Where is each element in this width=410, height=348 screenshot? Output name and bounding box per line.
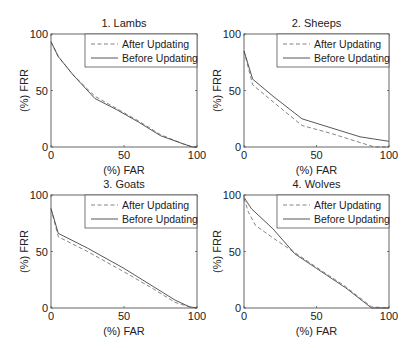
- legend: After Updating Before Updating: [85, 34, 198, 67]
- figure: 1. Lambs (%) FAR (%) FRR 050100050100 Af…: [0, 0, 410, 348]
- x-tick-label: 100: [380, 310, 398, 322]
- subplot-title: 4. Wolves: [292, 178, 341, 190]
- x-axis-label: (%) FAR: [296, 164, 338, 176]
- y-tick-label: 100: [223, 189, 241, 201]
- y-tick-label: 0: [235, 302, 241, 314]
- y-tick-label: 50: [36, 85, 48, 97]
- subplot-title: 3. Goats: [103, 178, 145, 190]
- x-tick-label: 100: [380, 149, 398, 161]
- y-axis-label: (%) FRR: [18, 69, 30, 112]
- legend: After Updating Before Updating: [277, 34, 390, 67]
- y-tick-label: 100: [30, 189, 48, 201]
- x-tick-label: 0: [241, 149, 247, 161]
- y-axis-label: (%) FRR: [18, 230, 30, 273]
- x-tick-label: 100: [188, 310, 206, 322]
- x-tick-label: 0: [241, 310, 247, 322]
- y-tick-label: 100: [30, 28, 48, 40]
- x-axis-label: (%) FAR: [103, 325, 145, 337]
- legend-before-label: Before Updating: [314, 213, 390, 225]
- legend: After Updating Before Updating: [277, 195, 390, 228]
- y-tick-label: 50: [229, 246, 241, 258]
- y-axis-label: (%) FRR: [211, 69, 223, 112]
- legend-after-label: After Updating: [122, 38, 189, 50]
- y-tick-label: 0: [235, 141, 241, 153]
- y-tick-label: 50: [229, 85, 241, 97]
- subplot-sheeps: 2. Sheeps (%) FAR (%) FRR 050100050100 A…: [211, 17, 398, 176]
- y-tick-label: 0: [42, 141, 48, 153]
- subplot-title: 1. Lambs: [101, 17, 147, 29]
- subplot-title: 2. Sheeps: [292, 17, 342, 29]
- y-tick-label: 0: [42, 302, 48, 314]
- legend-before-label: Before Updating: [122, 52, 198, 64]
- x-axis-label: (%) FAR: [103, 164, 145, 176]
- legend: After Updating Before Updating: [85, 195, 198, 228]
- x-tick-label: 50: [310, 310, 322, 322]
- x-tick-label: 0: [48, 149, 54, 161]
- x-tick-label: 50: [118, 149, 130, 161]
- subplot-lambs: 1. Lambs (%) FAR (%) FRR 050100050100 Af…: [18, 17, 206, 176]
- y-axis-label: (%) FRR: [211, 230, 223, 273]
- x-tick-label: 100: [188, 149, 206, 161]
- subplot-goats: 3. Goats (%) FAR (%) FRR 050100050100 Af…: [18, 178, 206, 337]
- y-tick-label: 50: [36, 246, 48, 258]
- y-tick-label: 100: [223, 28, 241, 40]
- legend-after-label: After Updating: [122, 199, 189, 211]
- x-tick-label: 0: [48, 310, 54, 322]
- legend-before-label: Before Updating: [314, 52, 390, 64]
- legend-after-label: After Updating: [314, 38, 381, 50]
- x-tick-label: 50: [118, 310, 130, 322]
- x-axis-label: (%) FAR: [296, 325, 338, 337]
- legend-before-label: Before Updating: [122, 213, 198, 225]
- chart-canvas: 1. Lambs (%) FAR (%) FRR 050100050100 Af…: [0, 0, 410, 348]
- legend-after-label: After Updating: [314, 199, 381, 211]
- subplot-wolves: 4. Wolves (%) FAR (%) FRR 050100050100 A…: [211, 178, 398, 337]
- x-tick-label: 50: [310, 149, 322, 161]
